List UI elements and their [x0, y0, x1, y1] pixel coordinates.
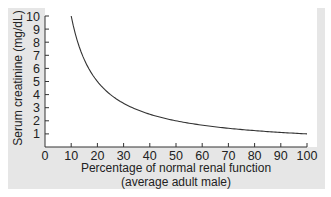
x-axis-ticks: 0102030405060708090100 — [42, 143, 318, 163]
x-tick-label: 90 — [274, 149, 288, 163]
y-tick-label: 4 — [33, 88, 40, 102]
y-tick-label: 7 — [33, 49, 40, 63]
y-tick-label: 5 — [33, 75, 40, 89]
y-tick-label: 2 — [33, 114, 40, 128]
y-tick-label: 10 — [26, 10, 40, 24]
x-axis-label: Percentage of normal renal function — [81, 161, 271, 175]
y-tick-label: 6 — [33, 62, 40, 76]
y-axis-label: Serum creatinine (mg/dL) — [11, 10, 25, 145]
data-line — [71, 16, 307, 134]
x-tick-label: 10 — [64, 149, 78, 163]
x-axis-label-line2: (average adult male) — [121, 175, 231, 189]
y-tick-label: 3 — [33, 101, 40, 115]
y-axis-ticks: 12345678910 — [26, 10, 49, 142]
y-tick-label: 8 — [33, 36, 40, 50]
creatinine-chart: 12345678910 0102030405060708090100 Serum… — [0, 0, 331, 197]
axes — [45, 16, 307, 147]
y-tick-label: 1 — [33, 127, 40, 141]
y-tick-label: 9 — [33, 23, 40, 37]
x-tick-label: 0 — [42, 149, 49, 163]
x-tick-label: 100 — [297, 149, 318, 163]
